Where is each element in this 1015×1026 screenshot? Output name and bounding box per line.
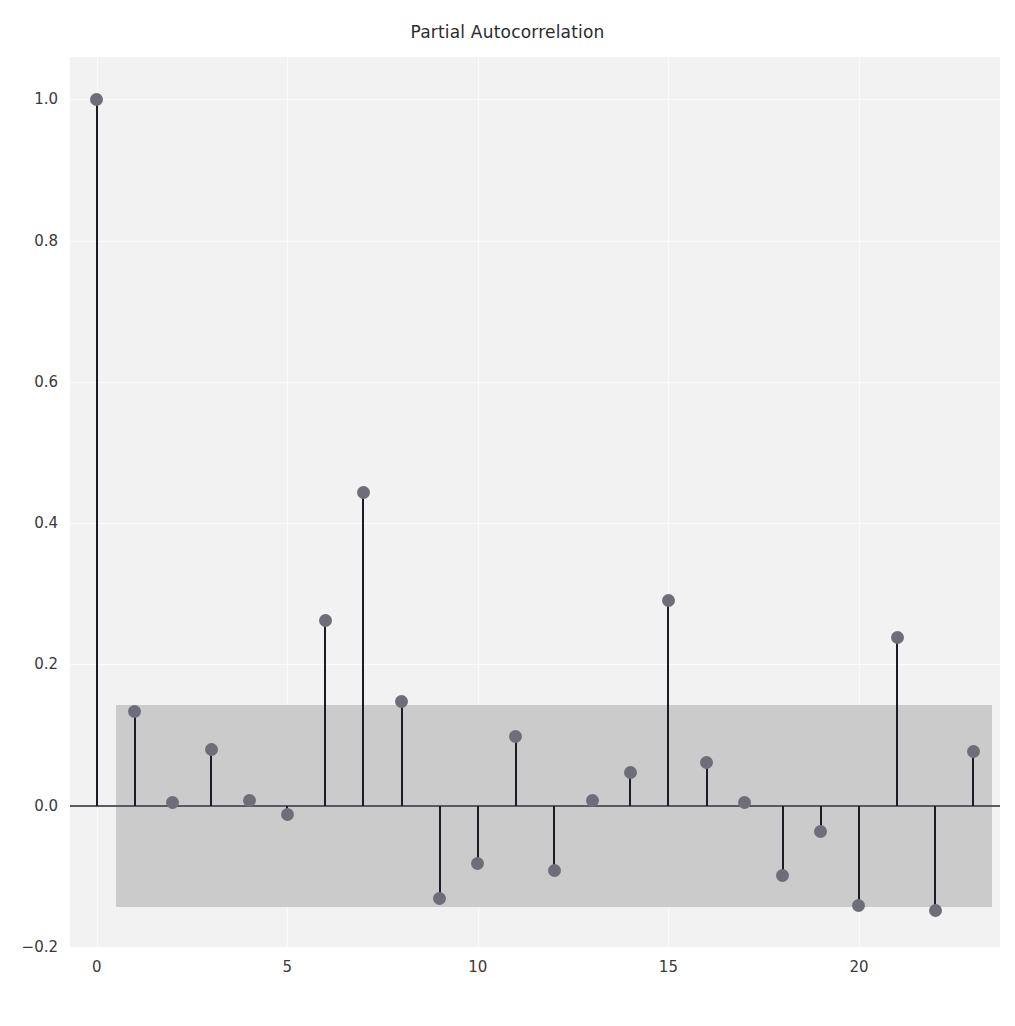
stem-line bbox=[667, 601, 669, 806]
stem-line bbox=[477, 806, 479, 864]
x-axis-tick-label: 15 bbox=[659, 958, 678, 976]
stem-line bbox=[134, 712, 136, 806]
data-point-marker bbox=[319, 614, 332, 627]
data-point-marker bbox=[357, 486, 370, 499]
stem-line bbox=[972, 751, 974, 805]
data-point-marker bbox=[929, 904, 942, 917]
chart-title: Partial Autocorrelation bbox=[0, 22, 1015, 42]
y-axis-tick-label: 0.2 bbox=[34, 655, 58, 673]
y-axis-tick-label: −0.2 bbox=[22, 938, 58, 956]
stem-line bbox=[96, 99, 98, 805]
data-point-marker bbox=[205, 743, 218, 756]
stem-line bbox=[553, 806, 555, 871]
x-axis-tick-labels: 05101520 bbox=[70, 958, 1000, 984]
y-axis-tick-label: 1.0 bbox=[34, 90, 58, 108]
stem-line bbox=[362, 492, 364, 806]
data-point-marker bbox=[891, 631, 904, 644]
stem-line bbox=[782, 806, 784, 876]
data-point-marker bbox=[662, 594, 675, 607]
data-point-marker bbox=[433, 892, 446, 905]
pacf-chart-figure: Partial Autocorrelation −0.20.00.20.40.6… bbox=[0, 0, 1015, 1026]
data-point-marker bbox=[586, 794, 599, 807]
data-point-marker bbox=[395, 695, 408, 708]
stem-line bbox=[706, 763, 708, 806]
y-axis-tick-labels: −0.20.00.20.40.60.81.0 bbox=[0, 57, 58, 947]
gridline-horizontal bbox=[70, 664, 1000, 665]
stem-line bbox=[210, 750, 212, 806]
y-axis-tick-label: 0.0 bbox=[34, 797, 58, 815]
x-axis-tick-label: 10 bbox=[468, 958, 487, 976]
data-point-marker bbox=[243, 794, 256, 807]
stem-line bbox=[439, 806, 441, 899]
gridline-horizontal bbox=[70, 382, 1000, 383]
data-point-marker bbox=[90, 93, 103, 106]
y-axis-tick-label: 0.8 bbox=[34, 232, 58, 250]
stem-line bbox=[896, 638, 898, 806]
stem-line bbox=[858, 806, 860, 906]
data-point-marker bbox=[967, 745, 980, 758]
stem-line bbox=[324, 621, 326, 806]
y-axis-tick-label: 0.4 bbox=[34, 514, 58, 532]
y-axis-tick-label: 0.6 bbox=[34, 373, 58, 391]
stem-line bbox=[934, 806, 936, 911]
data-point-marker bbox=[548, 864, 561, 877]
plot-area bbox=[70, 57, 1000, 947]
stem-line bbox=[515, 737, 517, 806]
data-point-marker bbox=[624, 766, 637, 779]
data-point-marker bbox=[852, 899, 865, 912]
x-axis-tick-label: 20 bbox=[849, 958, 868, 976]
data-point-marker bbox=[738, 796, 751, 809]
x-axis-tick-label: 5 bbox=[282, 958, 292, 976]
gridline-horizontal bbox=[70, 523, 1000, 524]
gridline-horizontal bbox=[70, 241, 1000, 242]
stem-line bbox=[401, 701, 403, 806]
data-point-marker bbox=[814, 825, 827, 838]
x-axis-tick-label: 0 bbox=[92, 958, 102, 976]
gridline-horizontal bbox=[70, 99, 1000, 100]
